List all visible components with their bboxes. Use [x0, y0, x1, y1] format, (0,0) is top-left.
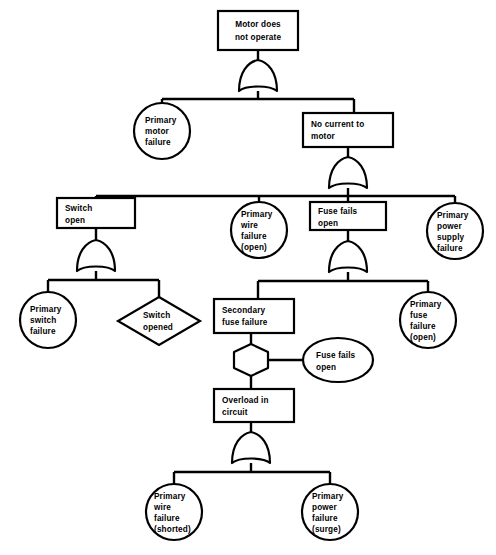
primary-motor-failure-line-1: Primary	[145, 116, 177, 125]
primary-wire-failure-open-line-4: (open)	[241, 243, 267, 252]
inhibit-gate-secondary-fuse-failure	[234, 344, 268, 376]
primary-power-supply-failure-line-1: Primary	[437, 211, 469, 220]
primary-power-failure-surge-line-4: (surge)	[312, 525, 341, 534]
node-primary-power-failure-surge[interactable]: Primary power failure (surge)	[302, 484, 358, 540]
node-fuse-fails-open-box[interactable]: Fuse fails open	[310, 202, 386, 230]
switch-opened-line-2: opened	[143, 323, 173, 332]
primary-fuse-failure-open-line-3: failure	[410, 322, 436, 331]
primary-switch-failure-line-1: Primary	[30, 305, 62, 314]
node-primary-switch-failure[interactable]: Primary switch failure	[20, 292, 76, 348]
fuse-fails-open-ellipse[interactable]	[303, 338, 373, 382]
node-no-current-to-motor[interactable]: No current to motor	[303, 113, 393, 147]
overload-in-circuit-line-1: Overload in	[222, 396, 269, 405]
fault-tree-canvas: Motor does not operate Primary motor fai…	[0, 0, 496, 555]
primary-wire-failure-open-line-1: Primary	[241, 210, 273, 219]
secondary-fuse-failure-box[interactable]	[214, 299, 294, 333]
fuse-fails-open-ellipse-line-1: Fuse fails	[316, 351, 356, 360]
secondary-fuse-failure-line-1: Secondary	[222, 306, 266, 315]
fuse-fails-open-box-line-1: Fuse fails	[318, 207, 358, 216]
primary-wire-failure-shorted-line-1: Primary	[154, 492, 186, 501]
no-current-to-motor-line-1: No current to	[311, 120, 364, 129]
primary-power-failure-surge-line-2: power	[312, 503, 338, 512]
primary-motor-failure-line-2: motor	[145, 127, 170, 136]
primary-power-supply-failure-line-2: power	[437, 222, 463, 231]
or-gate-switch-open	[77, 240, 115, 271]
node-secondary-fuse-failure[interactable]: Secondary fuse failure	[214, 299, 294, 333]
primary-power-supply-failure-line-3: supply	[437, 233, 465, 242]
primary-fuse-failure-open-line-1: Primary	[410, 300, 442, 309]
primary-power-supply-failure-line-4: failure	[437, 244, 463, 253]
node-primary-wire-failure-open[interactable]: Primary wire failure (open)	[231, 202, 287, 258]
node-overload-in-circuit[interactable]: Overload in circuit	[214, 389, 294, 422]
fuse-fails-open-box-line-2: open	[318, 219, 338, 228]
node-switch-opened[interactable]: Switch opened	[118, 297, 200, 345]
primary-wire-failure-shorted-line-3: failure	[154, 514, 180, 523]
primary-wire-failure-open-line-3: failure	[241, 232, 267, 241]
primary-motor-failure-line-3: failure	[145, 138, 171, 147]
top-event-box[interactable]	[218, 11, 298, 50]
or-gate-overload-in-circuit	[232, 432, 270, 463]
switch-open-line-1: Switch	[65, 204, 92, 213]
node-top-event-motor-does-not-operate[interactable]: Motor does not operate	[218, 11, 298, 50]
node-fuse-fails-open-ellipse[interactable]: Fuse fails open	[303, 338, 373, 382]
top-event-line-1: Motor does	[235, 20, 281, 29]
node-primary-power-supply-failure[interactable]: Primary power supply failure	[427, 203, 483, 259]
no-current-to-motor-line-2: motor	[311, 132, 336, 141]
or-gate-top-event	[239, 60, 277, 91]
or-gate-no-current-to-motor	[329, 157, 367, 188]
node-primary-motor-failure[interactable]: Primary motor failure	[134, 103, 190, 159]
primary-switch-failure-line-2: switch	[30, 316, 56, 325]
primary-power-failure-surge-line-3: failure	[312, 514, 338, 523]
primary-wire-failure-shorted-line-4: (shorted)	[154, 525, 191, 534]
primary-power-failure-surge-line-1: Primary	[312, 492, 344, 501]
primary-wire-failure-shorted-line-2: wire	[153, 503, 171, 512]
overload-in-circuit-line-2: circuit	[222, 408, 248, 417]
primary-fuse-failure-open-line-4: (open)	[410, 333, 436, 342]
node-primary-fuse-failure-open[interactable]: Primary fuse failure (open)	[400, 292, 456, 348]
no-current-to-motor-box[interactable]	[303, 113, 393, 147]
switch-opened-line-1: Switch	[143, 311, 170, 320]
primary-switch-failure-line-3: failure	[30, 327, 56, 336]
secondary-fuse-failure-line-2: fuse failure	[222, 318, 268, 327]
node-switch-open[interactable]: Switch open	[57, 198, 135, 228]
switch-open-line-2: open	[65, 216, 85, 225]
top-event-line-2: not operate	[235, 33, 282, 42]
fuse-fails-open-ellipse-line-2: open	[316, 363, 336, 372]
node-primary-wire-failure-shorted[interactable]: Primary wire failure (shorted)	[146, 484, 202, 540]
primary-fuse-failure-open-line-2: fuse	[410, 311, 428, 320]
primary-wire-failure-open-line-2: wire	[240, 221, 258, 230]
overload-in-circuit-box[interactable]	[214, 389, 294, 422]
or-gate-fuse-fails-open	[329, 241, 367, 272]
fault-tree-diagram: Motor does not operate Primary motor fai…	[0, 0, 496, 555]
switch-opened-diamond[interactable]	[118, 297, 200, 345]
